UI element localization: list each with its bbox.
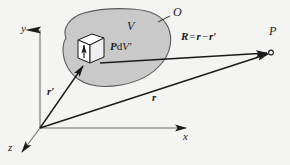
surface-label: O [173,6,182,18]
z-axis-line [22,128,40,152]
z-axis-label: z [8,142,12,153]
source-position-vector-arrow [40,66,83,128]
volume-label: V [127,20,134,32]
source-position-vector-label: r′ [47,86,54,97]
field-point-label: P [269,25,276,37]
equation-term2-prime: ′ [213,30,216,42]
vector-diagram-figure: y x z V O P PdV′ r′ r R=r−r′ [0,0,290,165]
volume-element-cube [78,34,104,63]
x-axis-label: x [183,131,188,142]
source-vector-prime: ′ [51,85,54,97]
field-position-vector-label: r [152,92,156,103]
source-element-label: PdV′ [110,41,131,52]
differential-volume-symbol: V [122,40,129,52]
diagram-canvas [0,0,290,165]
separation-equation-label: R=r−r′ [181,31,216,42]
field-point-marker [269,50,274,55]
equation-equals: = [188,30,196,42]
differential-volume-prime: ′ [129,40,131,52]
polarization-symbol: P [110,40,117,52]
y-axis-label: y [21,23,26,34]
equation-minus: − [201,30,209,42]
